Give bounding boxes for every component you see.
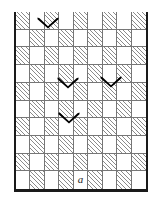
grid-cell-empty: [103, 30, 117, 48]
grid-cell-empty: [74, 65, 88, 83]
grid-cell-hatched: [103, 83, 117, 101]
grid-cell-hatched: [59, 30, 73, 48]
grid-cell-hatched: [59, 171, 73, 189]
grid-cell-empty: [132, 101, 146, 119]
grid-cell-hatched: [88, 171, 102, 189]
grid-cell-hatched: [16, 83, 30, 101]
grid-cell-hatched: [45, 12, 59, 30]
grid-cell-empty: [132, 30, 146, 48]
grid-cell-empty: [45, 136, 59, 154]
grid-cell-empty: [45, 30, 59, 48]
grid-cell-empty: [117, 83, 131, 101]
grid-cell-hatched: [117, 65, 131, 83]
grid-cell-empty: [88, 12, 102, 30]
grid-cell-empty: [30, 154, 44, 172]
grid-cell-hatched: [59, 65, 73, 83]
grid-cell-empty: [103, 65, 117, 83]
grid-cell-hatched: [132, 47, 146, 65]
grid-cell-hatched: [74, 83, 88, 101]
grid-cell-empty: [74, 30, 88, 48]
figure-label-a: a: [74, 174, 87, 185]
grid-cell-empty: [88, 118, 102, 136]
grid-cell-hatched: [88, 65, 102, 83]
grid-cell-hatched: [117, 30, 131, 48]
grid-cell-hatched: [45, 118, 59, 136]
grid-cell-hatched: [117, 171, 131, 189]
grid-cell-empty: [88, 83, 102, 101]
grid-cell-hatched: [16, 154, 30, 172]
grid-cell-empty: [59, 47, 73, 65]
grid-cell-hatched: [74, 118, 88, 136]
container-wall-bottom: [14, 189, 148, 192]
grid-cell-empty: [59, 83, 73, 101]
grid-cell-hatched: [103, 154, 117, 172]
grid-cell-hatched: [132, 118, 146, 136]
grid-cell-empty: [74, 136, 88, 154]
grid-cell-empty: [74, 101, 88, 119]
grid-cell-hatched: [74, 154, 88, 172]
grid-cell-empty: [59, 118, 73, 136]
grid-cell-hatched: [45, 83, 59, 101]
checkerboard-grid: a: [16, 12, 146, 189]
grid-cell-empty: [16, 136, 30, 154]
grid-cell-hatched: [88, 101, 102, 119]
grid-cell-empty: [88, 47, 102, 65]
grid-cell-hatched: [30, 136, 44, 154]
grid-cell-empty: [117, 47, 131, 65]
grid-cell-empty: [103, 101, 117, 119]
grid-cell-empty: [117, 118, 131, 136]
grid-cell-hatched: [132, 83, 146, 101]
grid-cell-hatched: [117, 101, 131, 119]
grid-cell-hatched: [103, 12, 117, 30]
grid-cell-empty: [103, 171, 117, 189]
grid-cell-empty: a: [74, 171, 88, 189]
grid-cell-empty: [45, 65, 59, 83]
grid-cell-empty: [117, 12, 131, 30]
grid-cell-empty: [45, 171, 59, 189]
grid-cell-empty: [59, 12, 73, 30]
grid-cell-hatched: [59, 136, 73, 154]
container-box: a: [14, 12, 148, 192]
grid-cell-hatched: [16, 47, 30, 65]
grid-cell-empty: [59, 154, 73, 172]
grid-cell-empty: [16, 65, 30, 83]
grid-cell-empty: [30, 118, 44, 136]
grid-cell-empty: [117, 154, 131, 172]
grid-cell-hatched: [103, 118, 117, 136]
grid-cell-empty: [132, 65, 146, 83]
grid-cell-hatched: [30, 30, 44, 48]
grid-cell-hatched: [16, 118, 30, 136]
grid-cell-hatched: [45, 154, 59, 172]
grid-cell-hatched: [30, 65, 44, 83]
grid-cell-hatched: [45, 47, 59, 65]
grid-cell-hatched: [88, 136, 102, 154]
figure-canvas: a: [0, 0, 162, 204]
grid-cell-hatched: [74, 47, 88, 65]
grid-cell-empty: [16, 30, 30, 48]
grid-cell-empty: [30, 47, 44, 65]
grid-cell-empty: [30, 12, 44, 30]
grid-cell-hatched: [117, 136, 131, 154]
grid-cell-empty: [16, 171, 30, 189]
grid-cell-hatched: [103, 47, 117, 65]
grid-cell-hatched: [132, 154, 146, 172]
grid-cell-hatched: [30, 101, 44, 119]
grid-cell-hatched: [132, 12, 146, 30]
grid-cell-hatched: [88, 30, 102, 48]
grid-cell-empty: [16, 101, 30, 119]
grid-cell-hatched: [16, 12, 30, 30]
grid-cell-empty: [88, 154, 102, 172]
grid-cell-hatched: [59, 101, 73, 119]
grid-cell-empty: [103, 136, 117, 154]
grid-cell-empty: [30, 83, 44, 101]
grid-cell-hatched: [74, 12, 88, 30]
grid-cell-empty: [132, 136, 146, 154]
grid-cell-empty: [45, 101, 59, 119]
grid-cell-hatched: [30, 171, 44, 189]
grid-cell-empty: [132, 171, 146, 189]
